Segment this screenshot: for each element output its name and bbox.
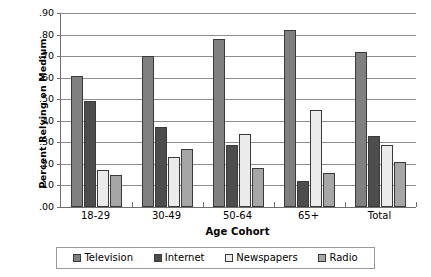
group-separator-tick [416, 202, 417, 207]
legend-label: Television [84, 253, 133, 263]
legend-swatch-icon [73, 254, 81, 262]
bar [355, 52, 368, 207]
bar [297, 181, 310, 207]
y-tick-mark [57, 207, 61, 208]
bar [213, 39, 226, 207]
group-separator-tick [203, 202, 204, 207]
bar-group [203, 13, 274, 207]
x-tick-label: 65+ [273, 210, 344, 221]
legend-item[interactable]: Internet [154, 253, 205, 263]
y-tick-label: .30 [14, 137, 54, 147]
bar [284, 30, 297, 207]
group-separator-tick [132, 202, 133, 207]
bar [71, 76, 84, 207]
legend-swatch-icon [225, 254, 233, 262]
bar-group [274, 13, 345, 207]
legend-item[interactable]: Newspapers [225, 253, 297, 263]
bar [97, 170, 110, 207]
bar [252, 168, 265, 207]
x-axis-title: Age Cohort [60, 226, 415, 237]
bar [394, 162, 407, 207]
bar [368, 136, 381, 207]
x-tick-label: 30-49 [131, 210, 202, 221]
bar [110, 175, 123, 207]
bar-chart: Percent Relying on Medium .00.10.20.30.4… [0, 0, 431, 277]
y-tick-label: .70 [14, 51, 54, 61]
chart-legend: TelevisionInternetNewspapersRadio [56, 247, 375, 269]
legend-label: Internet [165, 253, 205, 263]
bar [381, 145, 394, 208]
y-tick-label: .00 [14, 202, 54, 212]
y-tick-label: .20 [14, 159, 54, 169]
legend-label: Newspapers [236, 253, 297, 263]
legend-item[interactable]: Radio [318, 253, 357, 263]
bar [168, 157, 181, 207]
x-tick-label: 50-64 [202, 210, 273, 221]
bar-group [132, 13, 203, 207]
y-tick-label: .50 [14, 94, 54, 104]
bar [310, 110, 323, 207]
bar [323, 173, 336, 207]
legend-swatch-icon [318, 254, 326, 262]
legend-label: Radio [329, 253, 357, 263]
y-tick-label: .60 [14, 73, 54, 83]
x-tick-label: 18-29 [60, 210, 131, 221]
y-tick-label: .40 [14, 116, 54, 126]
group-separator-tick [345, 202, 346, 207]
legend-swatch-icon [154, 254, 162, 262]
y-tick-label: .10 [14, 180, 54, 190]
x-tick-label: Total [344, 210, 415, 221]
bar [239, 134, 252, 207]
bar [84, 101, 97, 207]
legend-item[interactable]: Television [73, 253, 133, 263]
bar [226, 145, 239, 208]
bar [155, 127, 168, 207]
bar [142, 56, 155, 207]
bar [181, 149, 194, 207]
plot-area [60, 13, 416, 208]
y-tick-label: .90 [14, 8, 54, 18]
bar-group [345, 13, 416, 207]
y-tick-label: .80 [14, 30, 54, 40]
bar-group [61, 13, 132, 207]
group-separator-tick [274, 202, 275, 207]
